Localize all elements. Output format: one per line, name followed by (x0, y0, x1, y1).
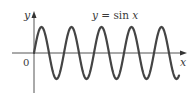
origin-label: 0 (23, 57, 29, 68)
y-axis-label: y (23, 9, 31, 22)
curve-label-x: x (132, 9, 138, 21)
sine-graph: y 0 x y = sin x (0, 0, 193, 99)
x-axis-arrow-icon (180, 51, 187, 56)
x-axis-label: x (180, 56, 187, 69)
curve-label-eq: = sin (98, 9, 132, 21)
curve-label: y = sin x (91, 9, 138, 21)
y-axis-arrow-icon (32, 11, 37, 18)
